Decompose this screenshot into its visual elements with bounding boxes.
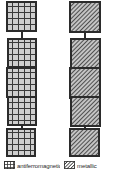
right-chain-nodes [70, 2, 100, 156]
diagonal-node-3 [70, 68, 100, 98]
legend-entry-grid: antiferromagnetic [4, 159, 60, 170]
chain-diagram-canvas [0, 0, 128, 172]
grid-node-2 [8, 39, 36, 67]
left-chain-nodes [7, 2, 36, 156]
grid-node-1 [7, 2, 36, 31]
grid-node-4 [8, 97, 36, 125]
legend-entry-diagonal: metallic [64, 159, 126, 170]
diagonal-node-5 [70, 129, 99, 156]
legend-label-diagonal: metallic [77, 163, 97, 170]
grid-node-3 [7, 68, 36, 97]
diagonal-node-1 [70, 2, 100, 32]
diagonal-node-4 [71, 97, 100, 126]
diagonal-hatch-swatch-icon [64, 161, 75, 169]
legend-label-grid: antiferromagnetic [17, 163, 60, 170]
legend: antiferromagnetic metallic [0, 159, 128, 172]
cross-hatch-grid-swatch-icon [4, 161, 15, 169]
grid-node-5 [7, 129, 35, 156]
diagonal-node-2 [71, 39, 100, 68]
